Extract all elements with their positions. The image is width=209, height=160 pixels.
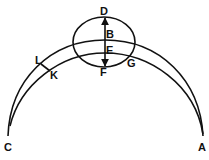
label-D: D: [100, 5, 108, 17]
label-F: F: [100, 66, 107, 78]
label-E: E: [106, 44, 113, 56]
label-K: K: [50, 69, 58, 81]
diagram-canvas: D B E F G L K C A: [0, 0, 209, 160]
label-A: A: [198, 141, 206, 153]
label-G: G: [127, 57, 136, 69]
label-L: L: [35, 54, 42, 66]
label-B: B: [106, 28, 114, 40]
arc-diagram: D B E F G L K C A: [0, 0, 209, 160]
label-C: C: [4, 141, 12, 153]
segment-LK: [41, 64, 50, 71]
